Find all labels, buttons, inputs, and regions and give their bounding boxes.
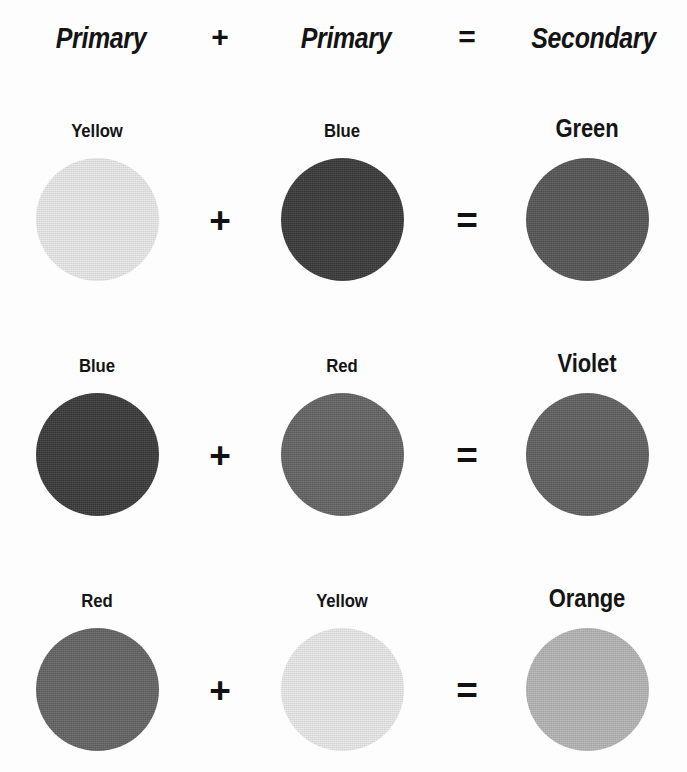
- swatch-label: Green: [508, 114, 666, 143]
- header-primary-b: Primary: [274, 22, 418, 55]
- swatch-label: Orange: [508, 584, 666, 613]
- color-swatch: [36, 393, 159, 516]
- swatch-label: Yellow: [263, 590, 421, 612]
- swatch-group-secondary: Green: [497, 110, 677, 345]
- swatch-label: Yellow: [18, 120, 176, 142]
- color-swatch: [281, 628, 404, 751]
- color-swatch: [526, 158, 649, 281]
- color-swatch: [36, 158, 159, 281]
- swatch-group-primary-b: Red: [252, 345, 432, 580]
- equals-icon: =: [437, 672, 497, 709]
- equals-icon: =: [437, 437, 497, 474]
- swatch-group-primary-a: Blue: [7, 345, 187, 580]
- chart-header-row: Primary + Primary = Secondary: [0, 0, 687, 95]
- swatch-label: Blue: [18, 355, 176, 377]
- color-mixing-chart: Primary + Primary = Secondary Yellow + B…: [0, 0, 687, 772]
- swatch-group-primary-b: Yellow: [252, 580, 432, 772]
- swatch-label: Blue: [263, 120, 421, 142]
- color-swatch: [281, 393, 404, 516]
- mix-row: Red + Yellow = Orange: [0, 580, 687, 772]
- header-primary-a: Primary: [29, 22, 173, 55]
- plus-icon: +: [190, 202, 250, 239]
- equals-icon: =: [437, 202, 497, 239]
- swatch-group-secondary: Orange: [497, 580, 677, 772]
- swatch-group-primary-a: Red: [7, 580, 187, 772]
- swatch-group-primary-a: Yellow: [7, 110, 187, 345]
- swatch-label: Red: [263, 355, 421, 377]
- mix-row: Yellow + Blue = Green: [0, 110, 687, 345]
- swatch-group-primary-b: Blue: [252, 110, 432, 345]
- plus-icon: +: [190, 437, 250, 474]
- color-swatch: [526, 628, 649, 751]
- color-swatch: [526, 393, 649, 516]
- plus-icon: +: [190, 672, 250, 709]
- color-swatch: [281, 158, 404, 281]
- swatch-label: Violet: [508, 349, 666, 378]
- plus-icon: +: [190, 20, 250, 54]
- swatch-group-secondary: Violet: [497, 345, 677, 580]
- equals-icon: =: [437, 20, 497, 54]
- swatch-label: Red: [18, 590, 176, 612]
- mix-row: Blue + Red = Violet: [0, 345, 687, 580]
- header-secondary: Secondary: [513, 22, 674, 55]
- color-swatch: [36, 628, 159, 751]
